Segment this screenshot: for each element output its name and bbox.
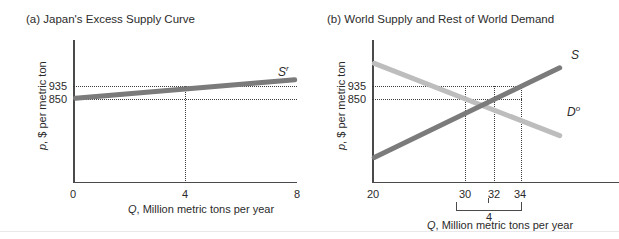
panel-a-y-axis bbox=[73, 40, 75, 183]
panel-a-supply-curve-label: Sr bbox=[278, 64, 289, 79]
panel-b-xtick-30: 30 bbox=[452, 188, 478, 200]
panel-b-dotted-quantity-34 bbox=[521, 86, 522, 183]
panel-b-x-axis bbox=[372, 182, 619, 184]
panel-b-title: (b) World Supply and Rest of World Deman… bbox=[327, 13, 554, 26]
panel-b-xtick-20: 20 bbox=[360, 188, 386, 200]
panel-a-xtick-8: 8 bbox=[284, 188, 310, 200]
panel-b-supply-curve-label-text: S bbox=[571, 48, 579, 62]
panel-a-ytick-850: 850 bbox=[33, 93, 67, 105]
panel-a-x-axis-label: Q, Million metric tons per year bbox=[128, 203, 274, 215]
panel-b-ytick-935: 935 bbox=[332, 80, 366, 92]
panel-a-y-axis-label: p, $ per metric ton bbox=[36, 61, 48, 150]
panel-b-range-brace bbox=[456, 202, 522, 211]
panel-b-x-axis-variable: Q bbox=[427, 219, 436, 231]
panel-a-x-axis-units: , Million metric tons per year bbox=[137, 203, 275, 215]
panel-a-plot-area bbox=[73, 40, 297, 183]
panel-a-ytick-935: 935 bbox=[33, 80, 67, 92]
panel-world-supply-demand: (b) World Supply and Rest of World Deman… bbox=[309, 0, 619, 239]
economics-figure: (a) Japan's Excess Supply Curve p, $ per… bbox=[0, 0, 619, 239]
panel-b-supply-curve-label: S bbox=[571, 48, 579, 62]
panel-a-y-axis-variable: p bbox=[36, 144, 48, 150]
panel-b-demand-curve-label: Do bbox=[567, 104, 580, 119]
panel-b-y-axis-variable: p bbox=[335, 144, 347, 150]
panel-b-plot-area bbox=[372, 40, 562, 183]
panel-b-range-brace-label: 4 bbox=[477, 211, 501, 223]
panel-a-x-axis-variable: Q bbox=[128, 203, 137, 215]
panel-b-ytick-850: 850 bbox=[332, 93, 366, 105]
panel-b-demand-curve-label-sup: o bbox=[576, 104, 580, 113]
panel-japan-excess-supply: (a) Japan's Excess Supply Curve p, $ per… bbox=[0, 0, 310, 239]
panel-b-range-brace-center-tick bbox=[488, 198, 489, 203]
panel-a-dotted-quantity-4 bbox=[185, 86, 186, 183]
panel-a-xtick-4: 4 bbox=[172, 188, 198, 200]
panel-a-xtick-0: 0 bbox=[60, 188, 86, 200]
panel-b-y-axis-label: p, $ per metric ton bbox=[335, 61, 347, 150]
panel-a-supply-curve-label-sup: r bbox=[286, 64, 289, 73]
panel-b-dotted-price-935 bbox=[372, 86, 522, 87]
panel-a-supply-curve-label-text: S bbox=[278, 65, 286, 79]
panel-a-title: (a) Japan's Excess Supply Curve bbox=[26, 13, 195, 26]
panel-b-xtick-34: 34 bbox=[507, 188, 533, 200]
panel-b-x-axis-units: , Million metric tons per year bbox=[436, 219, 574, 231]
panel-b-demand-curve-label-text: D bbox=[567, 105, 576, 119]
panel-b-xtick-32: 32 bbox=[481, 188, 507, 200]
panel-b-supply-curve bbox=[371, 64, 563, 160]
